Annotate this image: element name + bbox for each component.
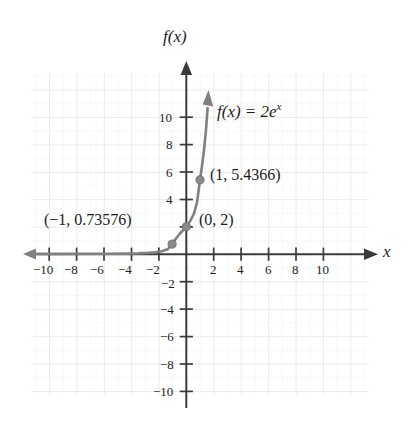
point-label-neg-one: (−1, 0.73576) xyxy=(44,212,132,228)
xtick-label-10: 10 xyxy=(316,263,329,276)
ytick-label-6: 6 xyxy=(166,166,173,179)
ytick-label-neg4: −4 xyxy=(160,303,174,316)
point-label-one: (1, 5.4366) xyxy=(210,167,281,183)
ytick-label-neg10: −10 xyxy=(153,385,173,398)
point-marker-neg1 xyxy=(168,240,176,248)
xtick-label-2: 2 xyxy=(210,263,217,276)
x-axis-label: x xyxy=(383,243,391,260)
point-marker-zero xyxy=(182,223,190,231)
xtick-label-neg6: −6 xyxy=(90,263,104,276)
ytick-label-10: 10 xyxy=(159,111,172,124)
point-label-origin: (0, 2) xyxy=(199,212,234,228)
exponential-function-graph: f(x) x f(x) = 2ex (−1, 0.73576) (0, 2) (… xyxy=(0,0,411,424)
xtick-label-neg10: −10 xyxy=(33,263,53,276)
function-equation-label: f(x) = 2ex xyxy=(217,103,282,120)
xtick-label-8: 8 xyxy=(292,263,299,276)
xtick-label-neg4: −4 xyxy=(118,263,132,276)
y-axis-label: f(x) xyxy=(163,28,187,45)
xtick-label-neg8: −8 xyxy=(64,263,78,276)
ytick-label-neg2: −2 xyxy=(161,277,175,290)
xtick-label-4: 4 xyxy=(237,263,244,276)
xtick-label-neg2: −2 xyxy=(146,263,160,276)
point-marker-one xyxy=(196,176,204,184)
ytick-label-8: 8 xyxy=(166,138,173,151)
ytick-label-neg6: −6 xyxy=(160,330,174,343)
grid-layer xyxy=(31,73,369,395)
ytick-label-neg8: −8 xyxy=(160,358,174,371)
ytick-label-4: 4 xyxy=(166,193,173,206)
xtick-label-6: 6 xyxy=(265,263,272,276)
